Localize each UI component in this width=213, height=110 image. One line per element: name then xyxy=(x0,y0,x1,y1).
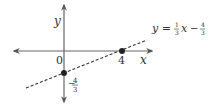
y-intercept-point xyxy=(61,70,67,76)
x-intercept-label: 4 xyxy=(118,54,125,67)
equation-label: y = 1 3 x − 4 3 xyxy=(151,21,205,36)
svg-text:3: 3 xyxy=(175,29,179,36)
origin-label: 0 xyxy=(56,54,63,67)
y-axis-label: y xyxy=(53,14,61,28)
dashed-line-graph xyxy=(26,40,147,88)
svg-text:x: x xyxy=(181,22,188,35)
svg-text:1: 1 xyxy=(175,21,179,28)
graph-figure: y x 0 4 − 4 3 y = 1 3 x − 4 3 xyxy=(0,0,213,110)
coordinate-plane: y x 0 4 − 4 3 y = 1 3 x − 4 3 xyxy=(0,0,213,110)
svg-text:3: 3 xyxy=(201,29,205,36)
svg-text:−: − xyxy=(190,23,198,34)
y-intercept-label: − 4 3 xyxy=(68,77,78,94)
svg-text:3: 3 xyxy=(73,86,77,94)
svg-text:4: 4 xyxy=(73,77,78,85)
x-axis-label: x xyxy=(140,53,147,67)
svg-text:4: 4 xyxy=(201,21,205,28)
svg-text:y =: y = xyxy=(151,22,171,35)
